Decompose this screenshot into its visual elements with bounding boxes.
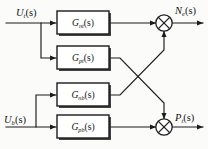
wire-gnb-cross-to-sum-top (110, 31, 164, 95)
input-label-ub: Ub(s) (4, 114, 26, 126)
wire-group (6, 23, 203, 127)
block-diagram-svg: Ut(s) Ub(s) Ne(s) Pt(s) Gnt(s) Gpt(s) Gn… (0, 0, 208, 149)
block-label-g-pt: Gpt(s) (72, 52, 94, 64)
wire-ut-branch-to-gpt (41, 23, 56, 58)
output-label-pt: Pt(s) (174, 112, 195, 124)
output-label-ne: Ne(s) (174, 5, 197, 17)
block-diagram-canvas: Ut(s) Ub(s) Ne(s) Pt(s) Gnt(s) Gpt(s) Gn… (0, 0, 208, 149)
wire-gpt-cross-to-sum-bottom (110, 58, 164, 119)
wire-ub-branch-to-gnb (36, 95, 56, 127)
summing-junction-bottom[interactable] (156, 119, 172, 135)
summing-junction-top[interactable] (156, 15, 172, 31)
block-label-g-nt: Gnt(s) (72, 17, 94, 29)
input-label-ut: Ut(s) (16, 7, 37, 19)
